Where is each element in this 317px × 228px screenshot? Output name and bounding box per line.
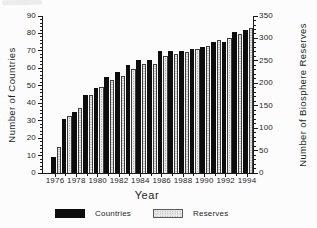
bar-countries-1981: [104, 77, 109, 173]
bar-countries-1989: [190, 49, 195, 173]
left-axis-minor-tick: [40, 19, 42, 20]
left-axis-minor-tick: [40, 148, 42, 149]
bar-pair-1988: [179, 51, 189, 173]
left-axis-minor-tick: [40, 99, 42, 100]
left-axis-tick-label: 90: [14, 12, 36, 20]
x-axis-tick-1991: [215, 174, 216, 176]
right-axis-minor-tick: [254, 141, 256, 142]
bar-reserves-1980: [99, 87, 104, 173]
left-axis-minor-tick: [40, 134, 42, 135]
left-axis-tick-label: 10: [14, 152, 36, 160]
right-axis-minor-tick: [254, 33, 256, 34]
right-axis-minor-tick: [254, 25, 256, 26]
left-axis-minor-tick: [40, 23, 42, 24]
left-axis-major-tick: [38, 173, 42, 174]
x-axis-title: Year: [42, 189, 252, 201]
right-axis-minor-tick: [254, 159, 256, 160]
x-axis-tick-1987: [172, 174, 173, 176]
bar-countries-1986: [158, 51, 163, 173]
right-axis-minor-tick: [254, 101, 256, 102]
bar-reserves-1990: [206, 46, 211, 173]
right-axis-minor-tick: [254, 146, 256, 147]
left-axis-minor-tick: [40, 92, 42, 93]
bar-countries-1982: [115, 72, 120, 173]
right-axis-minor-tick: [254, 20, 256, 21]
left-axis-minor-tick: [40, 159, 42, 160]
right-axis-tick-label: 200: [259, 79, 285, 87]
bar-pair-1981: [104, 77, 114, 173]
left-axis-tick-label: 30: [14, 117, 36, 125]
left-axis-minor-tick: [40, 61, 42, 62]
right-axis-minor-tick: [254, 69, 256, 70]
bar-pair-1992: [222, 38, 232, 173]
bar-countries-1977: [62, 119, 67, 173]
left-axis-minor-tick: [40, 110, 42, 111]
bar-pair-1991: [211, 40, 221, 173]
right-axis-tick-label: 250: [259, 57, 285, 65]
bar-pair-1976: [51, 147, 61, 173]
bar-reserves-1983: [131, 69, 136, 174]
left-axis-tick-label: 80: [14, 29, 36, 37]
left-axis-minor-tick: [40, 75, 42, 76]
left-axis-minor-tick: [40, 96, 42, 97]
legend-item-countries: Countries: [55, 209, 131, 218]
left-axis-major-tick: [38, 138, 42, 139]
x-axis-tick-1981: [108, 174, 109, 176]
right-axis-tick-label: 0: [259, 169, 285, 177]
bar-reserves-1992: [227, 38, 232, 173]
bar-pair-1994: [243, 28, 253, 173]
bar-countries-1992: [222, 42, 227, 173]
bar-pair-1977: [62, 116, 72, 173]
x-axis-tick-label-1990: 1990: [192, 177, 216, 185]
right-axis-minor-tick: [254, 65, 256, 66]
right-axis-minor-tick: [254, 137, 256, 138]
bar-pair-1993: [232, 32, 242, 173]
right-axis-minor-tick: [254, 56, 256, 57]
bar-countries-1979: [83, 95, 88, 174]
left-axis-tick-label: 60: [14, 64, 36, 72]
plot-area: [42, 16, 254, 174]
right-axis-minor-tick: [254, 87, 256, 88]
left-axis-minor-tick: [40, 124, 42, 125]
x-axis-tick-label-1978: 1978: [64, 177, 88, 185]
bar-countries-1991: [211, 42, 216, 173]
right-axis-minor-tick: [254, 92, 256, 93]
right-axis-minor-tick: [254, 47, 256, 48]
bar-countries-1985: [147, 60, 152, 173]
legend-swatch-countries: [55, 209, 85, 218]
left-axis-minor-tick: [40, 89, 42, 90]
left-axis-minor-tick: [40, 78, 42, 79]
left-axis-major-tick: [38, 16, 42, 17]
bar-reserves-1991: [217, 40, 222, 173]
bar-reserves-1989: [195, 49, 200, 173]
right-axis-major-tick: [254, 128, 258, 129]
right-axis-minor-tick: [254, 164, 256, 165]
bar-pair-1990: [200, 46, 210, 173]
bar-countries-1976: [51, 157, 56, 173]
legend-item-reserves: Reserves: [153, 209, 228, 218]
right-axis-minor-tick: [254, 168, 256, 169]
left-axis-major-tick: [38, 33, 42, 34]
left-axis-major-tick: [38, 85, 42, 86]
bar-reserves-1987: [174, 54, 179, 173]
left-axis-tick-label: 0: [14, 169, 36, 177]
right-axis-minor-tick: [254, 155, 256, 156]
right-axis-major-tick: [254, 150, 258, 151]
bar-reserves-1977: [67, 116, 72, 173]
right-axis-tick-label: 100: [259, 124, 285, 132]
left-axis-title: Number of Countries: [6, 47, 17, 142]
scan-artifact-smudge: [2, 0, 42, 5]
left-axis-minor-tick: [40, 145, 42, 146]
left-axis-minor-tick: [40, 127, 42, 128]
bar-countries-1983: [126, 65, 131, 173]
bar-pair-1989: [190, 49, 200, 173]
left-axis-major-tick: [38, 155, 42, 156]
legend-swatch-reserves: [153, 209, 183, 218]
bar-countries-1984: [136, 60, 141, 173]
bar-pair-1985: [147, 60, 157, 173]
right-axis-major-tick: [254, 16, 258, 17]
bar-reserves-1985: [153, 64, 158, 173]
bar-countries-1987: [168, 51, 173, 173]
right-axis-minor-tick: [254, 42, 256, 43]
left-axis-minor-tick: [40, 43, 42, 44]
